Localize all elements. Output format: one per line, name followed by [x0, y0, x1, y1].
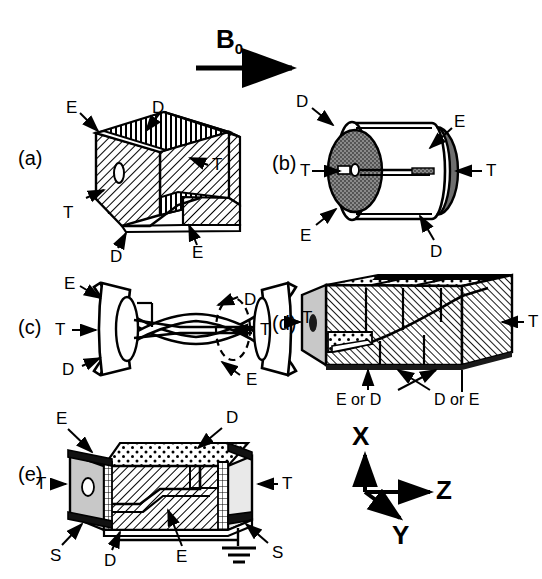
axis-label-x: X [352, 421, 369, 452]
panel-b-label-t-right: T [486, 161, 496, 181]
panel-b-label-d-top: D [296, 92, 308, 112]
panel-e-label-d-top: D [226, 408, 238, 428]
panel-e-label-s-left: S [50, 546, 61, 566]
figure-canvas: B0 (a) E D T T D E (b) D E T T E D (c) E… [0, 0, 542, 579]
panel-d-label-d-or-e: D or E [434, 391, 479, 409]
b0-field-label: B0 [216, 24, 243, 57]
panel-a-label-d-top: D [152, 98, 164, 118]
panel-b-label-e-top: E [454, 112, 465, 132]
panel-a-label-e-top: E [66, 98, 77, 118]
panel-a-label-d-bottom: D [110, 247, 122, 267]
panel-b-label-e-bottom: E [300, 226, 311, 246]
panel-c-label-d-bottom: D [62, 360, 74, 380]
aperture-oval [351, 164, 359, 176]
panel-label-b: (b) [272, 152, 296, 175]
panel-c-label-t-right: T [260, 320, 270, 340]
aperture-oval [114, 163, 124, 183]
panel-e-label-s-right: S [272, 543, 283, 563]
panel-b-label-d-bottom: D [430, 242, 442, 262]
panel-e-label-d-bottom: D [104, 551, 116, 571]
axis-label-z: Z [436, 475, 452, 506]
panel-a-label-e-bottom: E [192, 243, 203, 263]
panel-e-label-e-top: E [56, 409, 67, 429]
panel-c-label-t-left: T [55, 320, 65, 340]
panel-c-label-e-top: E [64, 274, 75, 294]
panel-d-label-e-or-d: E or D [336, 391, 381, 409]
panel-e-label-t-right: T [282, 474, 292, 494]
figure-svg [0, 0, 542, 579]
panel-d-label-t-left: T [302, 308, 312, 328]
panel-label-a: (a) [18, 147, 42, 170]
panel-label-c: (c) [18, 316, 41, 339]
panel-c-label-e-bottom: E [246, 370, 257, 390]
panel-b-label-t-left: T [300, 161, 310, 181]
panel-label-d: (d) [272, 312, 296, 335]
panel-d-label-t-right: T [528, 312, 538, 332]
aperture-oval [82, 478, 94, 496]
panel-e-label-t-left: T [36, 474, 46, 494]
panel-a-label-t-right: T [212, 155, 222, 175]
panel-e-label-e-bottom: E [176, 547, 187, 567]
panel-a-label-t-left: T [63, 203, 73, 223]
panel-c-label-d-top: D [244, 290, 256, 310]
axis-label-y: Y [392, 520, 409, 551]
